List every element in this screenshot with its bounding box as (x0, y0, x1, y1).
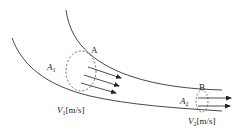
velocity-v1-label: V1[m/s] (57, 105, 85, 116)
velocity-arrow-a2 (84, 75, 119, 86)
lower-wall (12, 38, 222, 111)
upper-wall (66, 10, 222, 90)
velocity-arrow-a3 (81, 83, 116, 93)
section-b-label: B (199, 82, 205, 92)
velocity-arrow-a1 (88, 67, 121, 78)
section-b-boundary (196, 90, 208, 112)
velocity-v2-label: V2[m/s] (188, 116, 216, 127)
section-a-label: A (91, 45, 98, 55)
area-a1-label: A1 (46, 62, 56, 73)
area-a2-label: A2 (179, 96, 189, 107)
section-a-boundary (66, 51, 96, 91)
stream-tube-diagram: A A1 V1[m/s] B A2 V2[m/s] (0, 0, 237, 134)
